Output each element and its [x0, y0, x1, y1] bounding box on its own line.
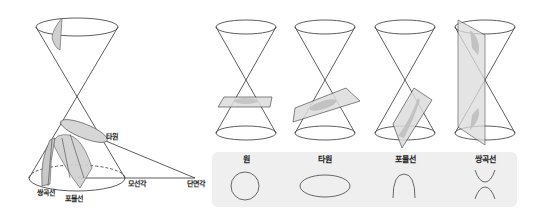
hyperbola-lower-icon: [475, 187, 495, 199]
conic-sections-diagram: 타원 쌍곡선 포물선 모선각 단면각 원 타원 포물선 쌍곡선: [0, 0, 544, 218]
circle-shape-icon: [231, 172, 259, 200]
parabola-shape-icon: [393, 174, 415, 198]
legend-shapes: [0, 0, 544, 218]
ellipse-shape-icon: [300, 175, 350, 197]
hyperbola-upper-icon: [475, 170, 495, 182]
